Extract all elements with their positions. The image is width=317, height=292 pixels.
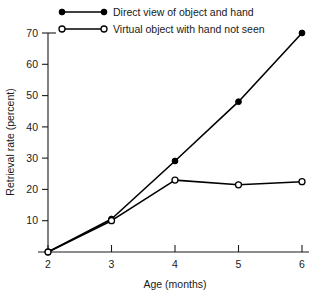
line-chart-svg: Direct view of object and hand Virtual o…	[0, 0, 317, 292]
legend-item-virtual-object: Virtual object with hand not seen	[59, 23, 265, 35]
data-point	[299, 179, 305, 185]
data-point	[236, 99, 242, 105]
legend-item-direct-view: Direct view of object and hand	[59, 6, 254, 18]
y-tick-label-20: 20	[26, 183, 38, 195]
chart-legend: Direct view of object and hand Virtual o…	[59, 6, 265, 35]
data-point	[299, 30, 305, 36]
y-axis-title: Retrieval rate (percent)	[4, 88, 16, 195]
data-point	[236, 182, 242, 188]
y-tick-label-50: 50	[26, 89, 38, 101]
legend-marker-filled-circle-icon	[59, 9, 107, 15]
y-tick-label-70: 70	[26, 27, 38, 39]
x-tick-label-3: 3	[109, 258, 115, 270]
data-point	[109, 218, 115, 224]
series-virtual-object	[45, 177, 305, 255]
x-tick-label-4: 4	[172, 258, 178, 270]
x-tick-label-2: 2	[45, 258, 51, 270]
y-axis-tick-labels: 70 60 50 40 30 20 10	[26, 27, 38, 227]
legend-label-virtual-object: Virtual object with hand not seen	[113, 23, 265, 35]
x-tick-label-6: 6	[299, 258, 305, 270]
y-tick-label-10: 10	[26, 214, 38, 226]
x-axis-title: Age (months)	[143, 278, 206, 290]
y-axis-ticks	[42, 33, 48, 221]
data-point	[172, 158, 178, 164]
series-direct-view	[45, 30, 305, 255]
x-tick-label-5: 5	[236, 258, 242, 270]
x-axis-tick-labels: 2 3 4 5 6	[45, 258, 305, 270]
data-point	[45, 249, 51, 255]
y-tick-label-30: 30	[26, 152, 38, 164]
series-virtual-object-line	[48, 180, 302, 252]
legend-marker-open-circle-icon	[59, 26, 107, 32]
data-point	[172, 177, 178, 183]
legend-label-direct-view: Direct view of object and hand	[113, 6, 254, 18]
y-tick-label-60: 60	[26, 58, 38, 70]
x-axis-ticks	[48, 245, 302, 252]
y-tick-label-40: 40	[26, 121, 38, 133]
series-direct-view-line	[48, 33, 302, 252]
chart-figure: Direct view of object and hand Virtual o…	[0, 0, 317, 292]
